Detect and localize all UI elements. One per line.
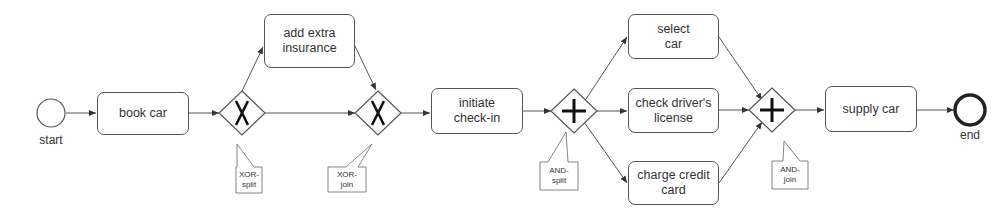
task-supply-car[interactable]: supply car	[825, 86, 917, 132]
flow-insurance-to-xor-join	[355, 46, 376, 90]
xor-join-gateway-icon	[355, 91, 401, 135]
task-initiate-check-in[interactable]: initiate check-in	[431, 88, 523, 134]
task-book-car[interactable]: book car	[97, 92, 189, 135]
flow-and-split-to-credit-card	[584, 122, 627, 183]
end-event-label: end	[950, 128, 990, 142]
flow-and-split-to-select-car	[584, 37, 627, 102]
task-add-extra-insurance[interactable]: add extra insurance	[264, 14, 355, 68]
xor-split-annotation: XOR- split	[236, 167, 262, 193]
xor-join-annotation: XOR- join	[328, 167, 366, 192]
and-split-gateway-icon	[551, 89, 597, 133]
gateway-annotations	[236, 132, 808, 193]
start-event-icon	[37, 99, 65, 127]
start-event-label: start	[31, 133, 71, 147]
end-event-icon	[955, 95, 985, 125]
flow-xor-split-to-insurance	[242, 47, 263, 91]
task-charge-credit-card[interactable]: charge credit card	[628, 161, 719, 205]
xor-split-gateway-icon	[219, 91, 265, 135]
flow-credit-card-to-and-join	[719, 122, 762, 183]
and-join-gateway-icon	[749, 88, 795, 132]
task-check-drivers-license[interactable]: check driver's license	[628, 88, 719, 133]
flow-select-car-to-and-join	[719, 37, 762, 100]
and-split-annotation: AND- split	[540, 162, 578, 190]
and-join-annotation: AND- join	[772, 161, 808, 189]
task-select-car[interactable]: select car	[628, 14, 719, 59]
